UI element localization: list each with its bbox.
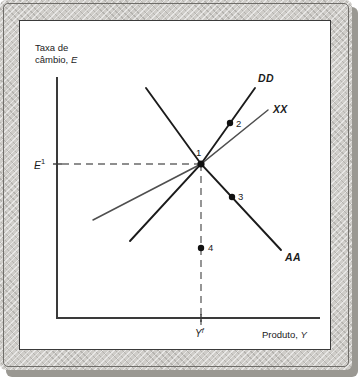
figure-container: Taxa de câmbio, E Produto, Y E1 Yf DD XX… [0, 0, 360, 378]
point-marker-1[interactable] [197, 160, 204, 167]
curve-label-aa: AA [285, 251, 301, 263]
point-label-4: 4 [208, 242, 213, 253]
y-axis-title-line2: câmbio, E [35, 54, 77, 65]
y-axis-title-line1: Taxa de [35, 42, 68, 53]
point-marker-4[interactable] [198, 245, 204, 251]
x-axis-tick-label: Yf [195, 327, 204, 339]
curve-aa [146, 88, 281, 250]
point-marker-3[interactable] [229, 194, 235, 200]
point-label-2: 2 [236, 118, 241, 129]
curve-xx [93, 110, 268, 220]
x-axis-title: Produto, Y [262, 329, 307, 341]
point-label-3: 3 [238, 191, 243, 202]
curve-label-xx: XX [273, 103, 288, 115]
point-label-1: 1 [196, 147, 201, 158]
curve-label-dd: DD [258, 72, 274, 84]
y-axis-title: Taxa de câmbio, E [35, 42, 77, 66]
y-axis-tick-label: E1 [34, 157, 45, 171]
point-marker-2[interactable] [227, 120, 233, 126]
